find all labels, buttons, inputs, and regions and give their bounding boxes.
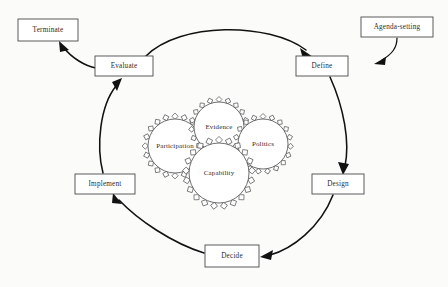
process-node-decide[interactable]: Decide	[205, 245, 259, 267]
node-label-evaluate: Evaluate	[111, 62, 138, 70]
gear-label-capability: Capability	[204, 169, 235, 177]
process-node-implement[interactable]: Implement	[75, 174, 135, 194]
flow-evaluate-to-define	[146, 30, 313, 59]
node-label-define: Define	[312, 62, 333, 70]
flow-decide-to-implement	[112, 193, 204, 253]
node-label-agenda-setting: Agenda-setting	[374, 23, 421, 31]
gear-label-participation: Participation	[156, 142, 194, 150]
gear-tooth	[194, 195, 199, 200]
gear-tooth	[288, 143, 294, 149]
gear-tooth	[260, 114, 266, 120]
node-label-design: Design	[327, 180, 349, 188]
gear-label-evidence: Evidence	[205, 123, 232, 131]
gear-label-politics: Politics	[252, 140, 274, 148]
node-label-implement: Implement	[89, 180, 122, 188]
process-node-define[interactable]: Define	[296, 56, 348, 76]
gear-tooth	[239, 195, 244, 200]
process-node-evaluate[interactable]: Evaluate	[95, 56, 153, 76]
diagram-canvas: ParticipationEvidencePoliticsCapability …	[0, 0, 448, 287]
flow-agenda-to-define	[374, 38, 397, 65]
gear-tooth	[172, 113, 178, 119]
arrowhead-decide-to-implement	[112, 193, 122, 204]
arrowhead-define-to-design	[338, 162, 349, 175]
arrowhead-design-to-decide	[260, 250, 273, 260]
process-node-agenda-setting[interactable]: Agenda-setting	[361, 17, 433, 37]
policy-cycle-diagram: ParticipationEvidencePoliticsCapability …	[0, 0, 448, 287]
gear-tooth	[142, 143, 148, 149]
arrowhead-evaluate-to-terminate	[59, 41, 69, 52]
process-node-design[interactable]: Design	[312, 174, 364, 194]
gear-cluster: ParticipationEvidencePoliticsCapability	[142, 97, 293, 210]
process-node-terminate[interactable]: Terminate	[18, 19, 78, 41]
gear-tooth	[281, 161, 285, 165]
arrowhead-agenda-to-define	[374, 57, 386, 65]
flow-implement-to-evaluate	[100, 78, 122, 173]
node-label-terminate: Terminate	[33, 26, 64, 34]
flow-evaluate-to-terminate	[59, 41, 96, 68]
flow-design-to-decide	[260, 195, 333, 260]
gear-tooth	[216, 97, 222, 103]
node-label-decide: Decide	[221, 252, 243, 260]
flow-define-to-design	[330, 77, 349, 175]
gear-tooth	[172, 173, 178, 179]
